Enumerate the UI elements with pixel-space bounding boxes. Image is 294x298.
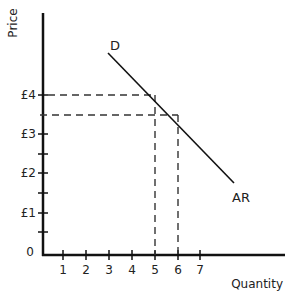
x-tick-label: 7 [196,263,204,277]
demand-curve-label: D [110,38,120,53]
ar-curve-label: AR [232,190,250,205]
x-tick-label: 3 [105,263,113,277]
x-axis-label: Quantity [231,277,283,291]
x-tick-label: 6 [174,263,182,277]
y-tick-label: £4 [21,88,36,102]
demand-ar-line [108,53,234,183]
y-axis-label: Price [6,8,20,37]
y-tick-label: £3 [21,127,36,141]
y-tick-label: £2 [21,166,36,180]
demand-curve-chart: Price £1 £2 £3 £4 0 1 2 3 4 5 6 7 Quanti… [0,0,294,298]
x-tick-label: 5 [151,263,159,277]
origin-label: 0 [26,245,34,259]
x-tick-label: 1 [59,263,67,277]
x-tick-label: 4 [128,263,136,277]
reference-lines [40,95,178,255]
y-tick-label: £1 [21,206,36,220]
x-tick-label: 2 [82,263,90,277]
